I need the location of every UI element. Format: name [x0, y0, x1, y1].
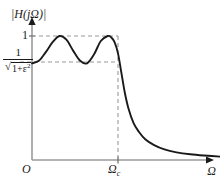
- guide-group: [20, 36, 118, 160]
- origin-label: O: [22, 163, 31, 175]
- ripple-fraction-numerator: 1: [12, 47, 24, 59]
- ripple-radicand-exponent: 2: [27, 62, 31, 70]
- tick-group: [29, 36, 118, 164]
- magnitude-response-curve: [32, 36, 220, 158]
- x-tick-label-cutoff: Ωc: [108, 163, 120, 178]
- ripple-radicand: 1+ε2: [11, 62, 31, 75]
- x-axis-label: Ω: [207, 165, 216, 177]
- y-axis-label: |H(jΩ)|: [11, 8, 46, 20]
- plot-canvas: [0, 0, 220, 187]
- cutoff-label-base: Ω: [108, 162, 117, 176]
- x-axis-arrow: [206, 156, 214, 163]
- ripple-fraction-denominator: √ 1+ε2: [3, 60, 33, 75]
- ripple-radicand-base: 1+ε: [12, 63, 27, 74]
- chebyshev-magnitude-response-figure: |H(jΩ)| 1 1 √ 1+ε2 O Ωc Ω: [0, 0, 220, 187]
- y-tick-label-ripple-level: 1 √ 1+ε2: [3, 47, 33, 75]
- cutoff-label-subscript: c: [117, 169, 121, 178]
- y-tick-label-one: 1: [22, 29, 28, 41]
